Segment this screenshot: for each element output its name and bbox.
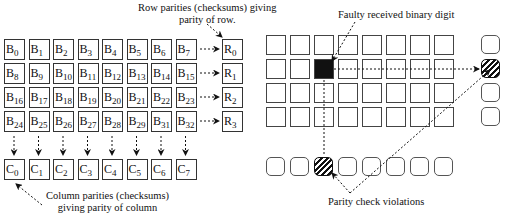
arrows-layer [0,0,506,217]
